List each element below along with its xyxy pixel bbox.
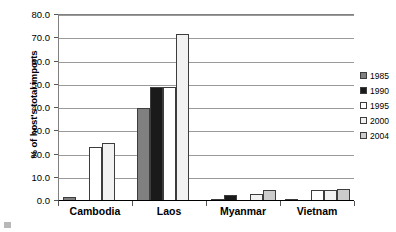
bar bbox=[263, 190, 276, 200]
page-edge-artifact bbox=[4, 222, 11, 228]
y-axis-tick-label: 60.0 bbox=[6, 55, 50, 66]
y-axis-tick-label: 30.0 bbox=[6, 125, 50, 136]
legend-label: 1990 bbox=[370, 86, 389, 96]
legend-swatch bbox=[360, 102, 367, 109]
x-axis-category-label: Myanmar bbox=[206, 205, 280, 217]
legend-item[interactable]: 2004 bbox=[360, 128, 396, 143]
bar bbox=[150, 87, 163, 200]
x-axis-category-label: Cambodia bbox=[58, 205, 132, 217]
x-axis-category-label: Vietnam bbox=[280, 205, 354, 217]
bar bbox=[285, 199, 298, 201]
bar-chart: % of host's total imports 0.010.020.030.… bbox=[0, 0, 396, 232]
chart-legend: 19851990199520002004 bbox=[360, 68, 396, 143]
bar-group bbox=[206, 14, 280, 200]
legend-label: 2000 bbox=[370, 116, 389, 126]
bar bbox=[224, 195, 237, 200]
legend-item[interactable]: 2000 bbox=[360, 113, 396, 128]
bar bbox=[137, 108, 150, 200]
bar bbox=[250, 194, 263, 200]
bar-groups bbox=[58, 14, 354, 200]
bar bbox=[211, 199, 224, 201]
legend-item[interactable]: 1995 bbox=[360, 98, 396, 113]
y-axis-tick-label: 0.0 bbox=[6, 195, 50, 206]
legend-item[interactable]: 1985 bbox=[360, 68, 396, 83]
bar-group bbox=[58, 14, 132, 200]
bar-group bbox=[280, 14, 354, 200]
bar bbox=[89, 147, 102, 200]
bar bbox=[63, 197, 76, 200]
bar bbox=[324, 190, 337, 200]
bar-group bbox=[132, 14, 206, 200]
bar bbox=[311, 190, 324, 200]
y-axis-tick-label: 10.0 bbox=[6, 171, 50, 182]
legend-swatch bbox=[360, 132, 367, 139]
bar bbox=[337, 189, 350, 200]
legend-swatch bbox=[360, 87, 367, 94]
y-axis-tick-label: 70.0 bbox=[6, 32, 50, 43]
x-axis-separator bbox=[354, 201, 355, 206]
y-axis-tick-label: 50.0 bbox=[6, 78, 50, 89]
legend-label: 1995 bbox=[370, 101, 389, 111]
y-axis-tick-label: 80.0 bbox=[6, 9, 50, 20]
legend-label: 1985 bbox=[370, 71, 389, 81]
legend-swatch bbox=[360, 72, 367, 79]
bar bbox=[176, 34, 189, 200]
y-axis-tick-label: 40.0 bbox=[6, 102, 50, 113]
x-axis-category-labels: CambodiaLaosMyanmarVietnam bbox=[58, 205, 354, 217]
legend-item[interactable]: 1990 bbox=[360, 83, 396, 98]
bar bbox=[102, 143, 115, 200]
legend-swatch bbox=[360, 117, 367, 124]
x-axis-category-label: Laos bbox=[132, 205, 206, 217]
y-axis-tick-label: 20.0 bbox=[6, 148, 50, 159]
legend-label: 2004 bbox=[370, 131, 389, 141]
bar bbox=[163, 87, 176, 200]
